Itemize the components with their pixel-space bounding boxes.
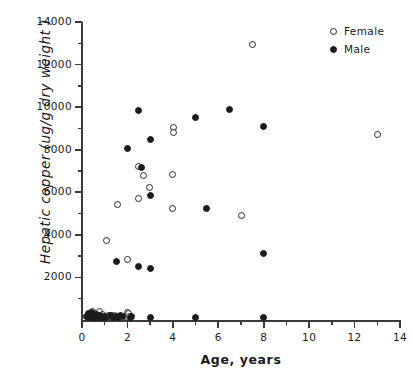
legend-item-male[interactable]: Male <box>330 40 384 58</box>
x-axis-label: Age, years <box>82 352 400 367</box>
data-point-male <box>138 164 145 171</box>
x-tick-minor <box>195 321 196 325</box>
y-tick-major <box>75 234 82 236</box>
x-tick-major <box>354 321 356 328</box>
x-tick-label: 12 <box>335 331 375 343</box>
legend-label-female: Female <box>344 25 384 37</box>
x-tick-major <box>127 321 129 328</box>
scatter-plot-figure: Hepatic copper (ug/g dry weight ) Age, y… <box>0 0 413 377</box>
y-tick-label: 12000 <box>20 58 72 70</box>
y-tick-major <box>75 191 82 193</box>
x-tick-major <box>263 321 265 328</box>
x-tick-label: 8 <box>244 331 284 343</box>
data-point-female <box>140 172 147 179</box>
y-tick-label: 6000 <box>20 185 72 197</box>
data-point-female <box>103 237 110 244</box>
x-tick-minor <box>377 321 378 325</box>
data-point-female <box>169 171 176 178</box>
data-point-female <box>146 184 153 191</box>
data-point-male <box>135 263 142 270</box>
data-point-female <box>124 256 131 263</box>
y-tick-major <box>75 106 82 108</box>
data-point-male <box>260 250 267 257</box>
data-point-male <box>147 192 154 199</box>
x-tick-major <box>399 321 401 328</box>
x-tick-label: 4 <box>153 331 193 343</box>
legend: Female Male <box>330 22 384 58</box>
y-tick-label: 4000 <box>20 228 72 240</box>
x-tick-major <box>217 321 219 328</box>
y-tick-label: 2000 <box>20 270 72 282</box>
data-point-male <box>203 205 210 212</box>
data-point-female <box>238 212 245 219</box>
x-tick-label: 2 <box>107 331 147 343</box>
y-tick-label: 8000 <box>20 143 72 155</box>
data-point-female <box>249 41 256 48</box>
x-tick-label: 0 <box>62 331 102 343</box>
data-point-male <box>260 314 267 321</box>
legend-label-male: Male <box>344 43 370 55</box>
y-tick-label: 10000 <box>20 100 72 112</box>
x-tick-minor <box>240 321 241 325</box>
x-tick-major <box>81 321 83 328</box>
data-point-male <box>147 314 154 321</box>
data-point-male <box>135 107 142 114</box>
x-tick-minor <box>331 321 332 325</box>
data-point-female <box>170 129 177 136</box>
y-tick-major <box>75 64 82 66</box>
open-circle-icon <box>330 28 337 35</box>
filled-circle-icon <box>330 46 337 53</box>
data-point-male <box>226 106 233 113</box>
y-tick-label: 14000 <box>20 15 72 27</box>
data-point-female <box>114 201 121 208</box>
plot-area <box>82 22 400 320</box>
data-point-female <box>374 131 381 138</box>
x-tick-minor <box>286 321 287 325</box>
x-tick-minor <box>149 321 150 325</box>
data-point-male <box>113 258 120 265</box>
data-point-male <box>260 123 267 130</box>
legend-item-female[interactable]: Female <box>330 22 384 40</box>
data-point-female <box>135 195 142 202</box>
data-point-male <box>147 136 154 143</box>
y-tick-major <box>75 21 82 23</box>
data-point-male <box>124 145 131 152</box>
data-point-female <box>169 205 176 212</box>
x-tick-label: 10 <box>289 331 329 343</box>
data-point-male <box>147 265 154 272</box>
x-tick-major <box>308 321 310 328</box>
x-tick-minor <box>104 321 105 325</box>
y-tick-major <box>75 149 82 151</box>
y-tick-major <box>75 277 82 279</box>
x-tick-major <box>172 321 174 328</box>
x-tick-label: 14 <box>380 331 413 343</box>
x-tick-label: 6 <box>198 331 238 343</box>
data-point-male <box>192 114 199 121</box>
data-point-male <box>128 313 135 320</box>
